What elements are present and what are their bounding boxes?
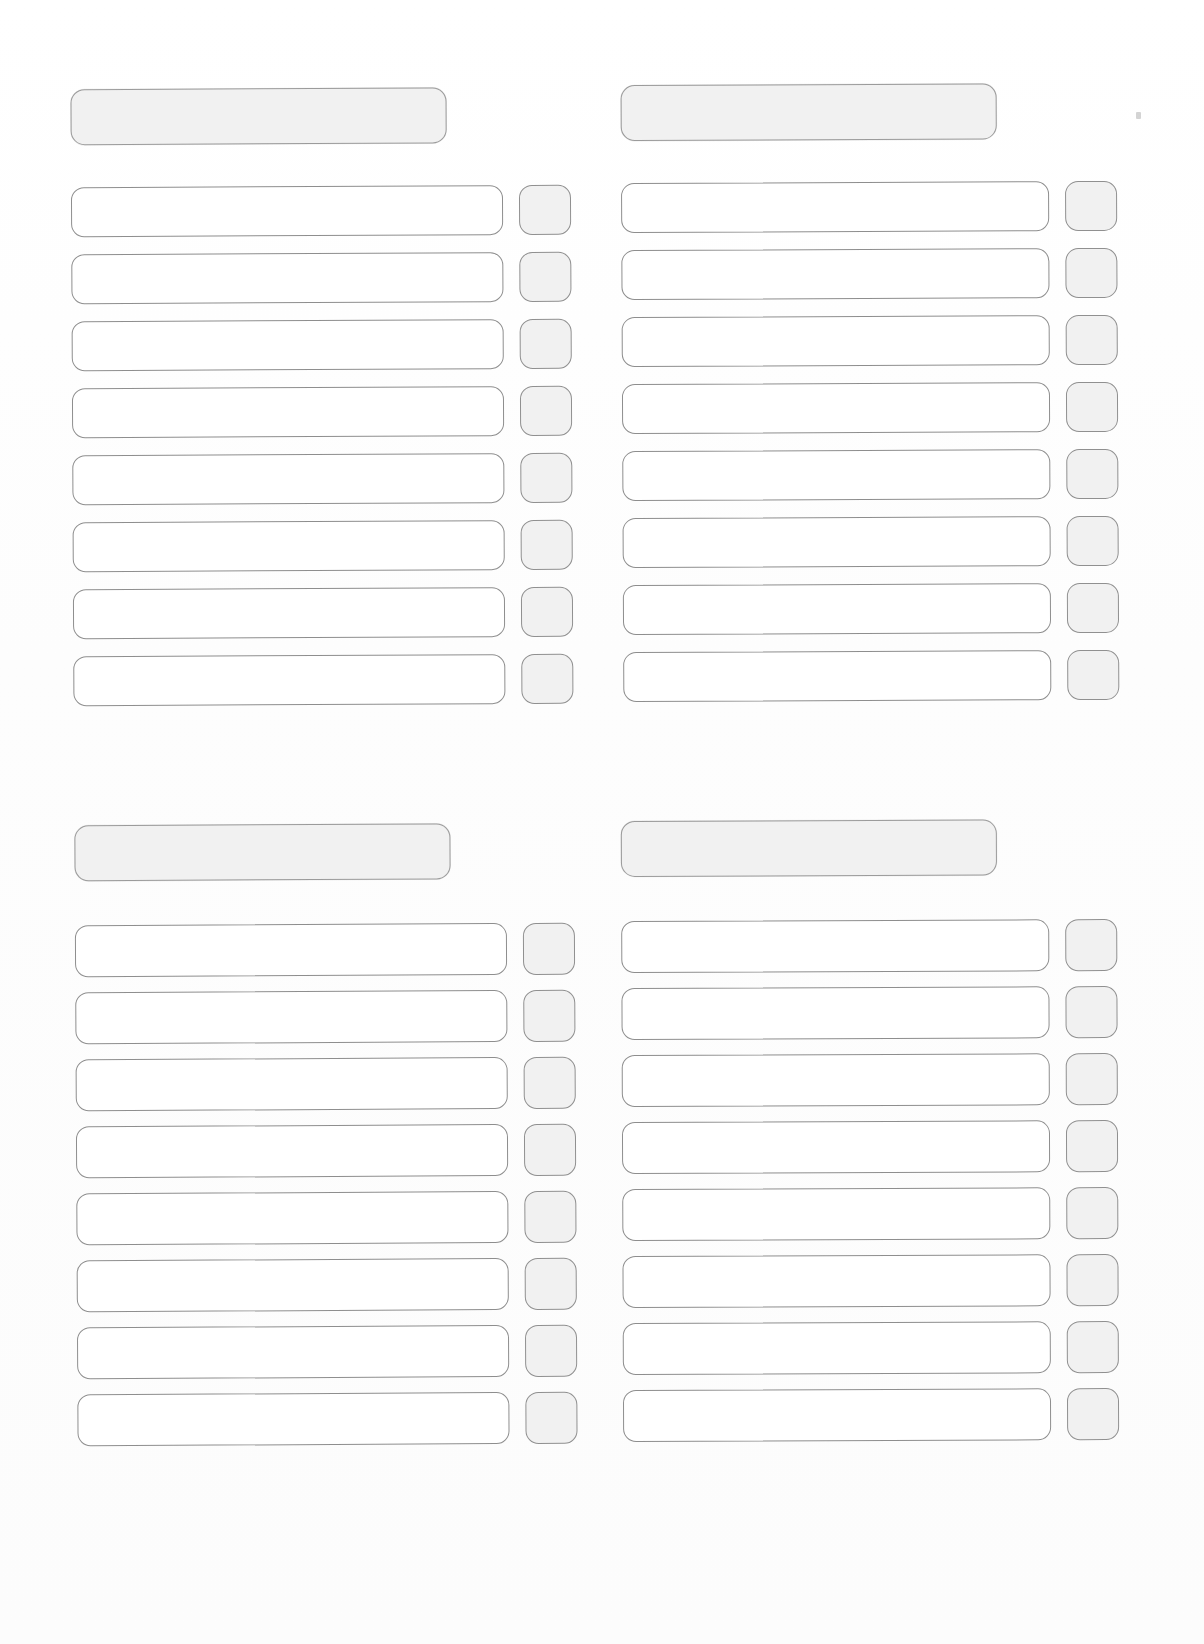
form-row xyxy=(622,1120,1118,1174)
form-row xyxy=(73,587,573,639)
section-header-bottom-right[interactable] xyxy=(621,820,997,877)
form-checkbox[interactable] xyxy=(1065,181,1117,231)
form-field-value xyxy=(624,1322,1050,1374)
section-header-bottom-left[interactable] xyxy=(74,823,450,881)
form-field-input[interactable] xyxy=(623,516,1051,568)
form-checkbox[interactable] xyxy=(1066,449,1118,499)
form-field-input[interactable] xyxy=(623,1321,1051,1375)
form-checkbox[interactable] xyxy=(1067,1321,1119,1373)
form-checkbox-value xyxy=(1068,517,1118,565)
form-row xyxy=(621,181,1117,233)
form-checkbox[interactable] xyxy=(1066,1053,1118,1105)
form-field-value xyxy=(624,584,1050,634)
form-field-input[interactable] xyxy=(622,315,1050,367)
form-checkbox[interactable] xyxy=(520,453,572,503)
form-checkbox[interactable] xyxy=(1066,1254,1118,1306)
form-checkbox-value xyxy=(521,387,571,435)
form-checkbox[interactable] xyxy=(520,319,572,369)
section-header-label xyxy=(75,824,449,880)
form-field-input[interactable] xyxy=(77,1325,509,1379)
form-checkbox[interactable] xyxy=(1066,315,1118,365)
form-row xyxy=(622,315,1118,367)
form-checkbox-value xyxy=(522,655,572,703)
form-checkbox-value xyxy=(1066,987,1116,1037)
form-checkbox[interactable] xyxy=(1067,516,1119,566)
form-field-input[interactable] xyxy=(75,990,507,1044)
form-field-value xyxy=(78,1259,508,1311)
form-checkbox[interactable] xyxy=(1065,248,1117,298)
form-row xyxy=(621,919,1117,973)
form-checkbox[interactable] xyxy=(523,990,575,1042)
form-checkbox[interactable] xyxy=(520,386,572,436)
form-field-input[interactable] xyxy=(75,923,507,977)
form-checkbox[interactable] xyxy=(1066,382,1118,432)
form-field-input[interactable] xyxy=(622,1187,1050,1241)
section-header-label xyxy=(622,84,996,140)
form-checkbox[interactable] xyxy=(1065,986,1117,1038)
form-checkbox[interactable] xyxy=(1066,1187,1118,1239)
form-field-input[interactable] xyxy=(76,1057,508,1111)
form-field-value xyxy=(76,924,506,976)
form-checkbox[interactable] xyxy=(1066,1120,1118,1172)
form-field-input[interactable] xyxy=(622,1254,1050,1308)
form-row xyxy=(622,1053,1118,1107)
form-checkbox[interactable] xyxy=(1065,919,1117,971)
form-checkbox[interactable] xyxy=(524,1057,576,1109)
form-field-input[interactable] xyxy=(73,587,505,639)
form-checkbox[interactable] xyxy=(519,185,571,235)
form-field-input[interactable] xyxy=(72,319,504,371)
form-checkbox[interactable] xyxy=(521,587,573,637)
form-checkbox[interactable] xyxy=(525,1258,577,1310)
form-row xyxy=(72,319,572,371)
form-field-input[interactable] xyxy=(623,650,1051,702)
form-field-input[interactable] xyxy=(72,386,504,438)
form-field-input[interactable] xyxy=(623,1388,1051,1442)
form-checkbox[interactable] xyxy=(1067,650,1119,700)
form-checkbox[interactable] xyxy=(521,654,573,704)
form-checkbox[interactable] xyxy=(524,1191,576,1243)
section-header-top-left[interactable] xyxy=(70,87,446,145)
form-field-input[interactable] xyxy=(72,453,504,505)
form-checkbox[interactable] xyxy=(525,1325,577,1377)
form-checkbox[interactable] xyxy=(519,252,571,302)
form-section-top-right xyxy=(621,83,1120,719)
form-field-input[interactable] xyxy=(77,1392,509,1446)
form-row xyxy=(623,516,1119,568)
form-field-input[interactable] xyxy=(622,382,1050,434)
form-field-input[interactable] xyxy=(77,1258,509,1312)
form-field-input[interactable] xyxy=(76,1124,508,1178)
form-checkbox[interactable] xyxy=(1067,1388,1119,1440)
form-field-input[interactable] xyxy=(621,181,1049,233)
form-field-input[interactable] xyxy=(622,449,1050,501)
form-field-value xyxy=(624,1389,1050,1441)
form-checkbox-value xyxy=(521,454,571,502)
form-checkbox-value xyxy=(521,320,571,368)
form-field-input[interactable] xyxy=(76,1191,508,1245)
form-checkbox-value xyxy=(520,253,570,301)
form-checkbox-value xyxy=(526,1326,576,1376)
form-field-input[interactable] xyxy=(73,654,505,706)
form-checkbox[interactable] xyxy=(524,1124,576,1176)
form-field-value xyxy=(623,1188,1049,1240)
form-field-input[interactable] xyxy=(622,1053,1050,1107)
form-checkbox[interactable] xyxy=(1067,583,1119,633)
form-checkbox-value xyxy=(525,1058,575,1108)
form-field-input[interactable] xyxy=(73,520,505,572)
form-checkbox[interactable] xyxy=(521,520,573,570)
form-row xyxy=(622,1187,1118,1241)
form-field-value xyxy=(74,521,504,571)
form-field-input[interactable] xyxy=(71,252,503,304)
form-field-input[interactable] xyxy=(621,986,1049,1040)
form-field-input[interactable] xyxy=(623,583,1051,635)
form-field-value xyxy=(623,450,1049,500)
form-checkbox[interactable] xyxy=(523,923,575,975)
form-row xyxy=(71,252,571,304)
form-field-value xyxy=(72,253,502,303)
section-header-top-right[interactable] xyxy=(621,83,997,141)
form-field-input[interactable] xyxy=(621,919,1049,973)
form-field-input[interactable] xyxy=(622,1120,1050,1174)
form-field-input[interactable] xyxy=(621,248,1049,300)
form-checkbox-value xyxy=(1066,920,1116,970)
form-field-input[interactable] xyxy=(71,185,503,237)
form-checkbox[interactable] xyxy=(525,1392,577,1444)
